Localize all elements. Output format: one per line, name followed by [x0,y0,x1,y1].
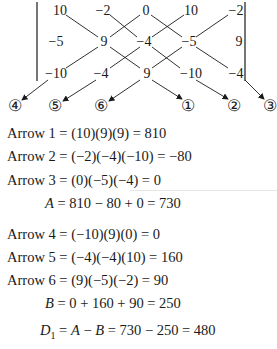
matrix-cell: 10 [184,4,198,18]
equation-b-sum: B = 0 + 160 + 90 = 250 [45,295,181,311]
matrix-cell: 0 [143,4,150,18]
equation-arrow-6: Arrow 6 = (9)(−5)(−2) = 90 [7,272,168,288]
equation-a-sum: A = 810 − 80 + 0 = 730 [45,195,181,211]
equation-arrow-2: Arrow 2 = (−2)(−4)(−10) = −80 [7,148,192,164]
matrix-cell: −5 [49,35,64,49]
matrix-cell: 9 [101,35,108,49]
equation-arrow-3: Arrow 3 = (0)(−5)(−4) = 0 [7,172,161,188]
arrow-label-1: ① [181,99,195,113]
matrix-cell: −10 [180,67,202,81]
matrix-cell: −4 [229,67,244,81]
matrix-cell: −4 [137,35,152,49]
matrix-cell: −5 [182,35,197,49]
sarrus-diagram: 10 −2 0 10 −2 −5 9 −4 −5 9 −10 −4 9 −10 … [0,0,277,120]
arrow-label-2: ② [227,99,241,113]
arrow-label-4: ④ [8,99,22,113]
arrow-label-6: ⑥ [94,99,108,113]
equation-arrow-4: Arrow 4 = (−10)(9)(0) = 0 [7,226,160,242]
scan-artifact [130,190,277,191]
equation-arrow-1: Arrow 1 = (10)(9)(9) = 810 [7,125,166,141]
matrix-cell: −2 [96,4,111,18]
matrix-cell: −4 [94,67,109,81]
matrix-cell: 9 [144,67,151,81]
matrix-cell: −10 [45,67,67,81]
equation-arrow-5: Arrow 5 = (−4)(−4)(10) = 160 [7,249,183,265]
matrix-cell: 9 [236,35,243,49]
var-a: A [45,195,54,211]
var-d: D [40,322,50,338]
var-b: B [45,295,54,311]
arrow-label-3: ③ [263,99,277,113]
matrix-cell: −2 [229,4,244,18]
arrow-label-5: ⑤ [48,99,62,113]
equation-determinant: D1 = A − B = 730 − 250 = 480 [40,322,216,344]
matrix-cell: 10 [53,4,67,18]
